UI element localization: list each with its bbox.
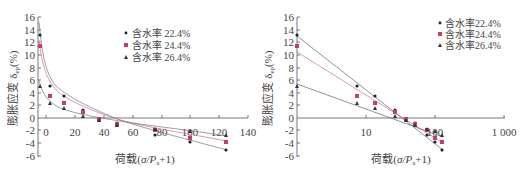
left-chart-panel: 16 14 12 10 8 6 4 2 0 -2 -4 -6 0 20 40 6… xyxy=(0,0,261,177)
svg-text:2: 2 xyxy=(289,99,295,111)
svg-text:16: 16 xyxy=(283,11,295,23)
svg-text:含水率 24.4%: 含水率 24.4% xyxy=(132,39,190,51)
svg-text:12: 12 xyxy=(24,36,35,48)
svg-text:-4: -4 xyxy=(285,137,295,149)
right-x-tick-labels: 10 100 1 000 xyxy=(361,126,517,138)
svg-text:含水率22.4%: 含水率22.4% xyxy=(445,17,501,29)
svg-text:2: 2 xyxy=(30,99,36,111)
svg-text:-4: -4 xyxy=(26,137,36,149)
left-y-label: 膨胀应变 δep(%) xyxy=(6,50,21,125)
left-y-tick-labels: 16 14 12 10 8 6 4 2 0 -2 -4 -6 xyxy=(24,11,36,162)
svg-text:含水率 26.4%: 含水率 26.4% xyxy=(132,51,190,63)
svg-text:0: 0 xyxy=(289,112,295,124)
svg-text:10: 10 xyxy=(24,49,36,61)
svg-text:8: 8 xyxy=(30,62,36,74)
svg-text:0: 0 xyxy=(43,126,49,138)
left-x-ticks xyxy=(46,115,248,118)
legend-dot-icon xyxy=(439,22,442,25)
svg-text:14: 14 xyxy=(24,24,36,36)
svg-text:12: 12 xyxy=(283,36,294,48)
svg-text:含水率 22.4%: 含水率 22.4% xyxy=(132,27,190,39)
svg-text:含水率24.4%: 含水率24.4% xyxy=(445,28,501,40)
svg-text:4: 4 xyxy=(289,87,295,99)
legend-square-icon xyxy=(124,43,128,47)
right-chart-panel: 16 14 12 10 8 6 4 2 0 -2 -4 -6 10 100 1 … xyxy=(261,0,522,177)
left-chart: 16 14 12 10 8 6 4 2 0 -2 -4 -6 0 20 40 6… xyxy=(0,0,261,177)
svg-text:10: 10 xyxy=(283,49,295,61)
right-y-tick-labels: 16 14 12 10 8 6 4 2 0 -2 -4 -6 xyxy=(283,11,295,162)
svg-text:8: 8 xyxy=(289,62,295,74)
svg-text:0: 0 xyxy=(30,112,36,124)
svg-text:60: 60 xyxy=(128,126,140,138)
svg-text:-2: -2 xyxy=(285,124,294,136)
right-x-label: 荷载(σ/Pa+1) xyxy=(371,153,431,167)
svg-text:含水率26.4%: 含水率26.4% xyxy=(445,39,501,51)
svg-text:6: 6 xyxy=(289,74,295,86)
svg-text:4: 4 xyxy=(30,87,36,99)
svg-text:14: 14 xyxy=(283,24,295,36)
svg-text:1 000: 1 000 xyxy=(492,126,517,138)
svg-text:140: 140 xyxy=(240,126,257,138)
right-legend: 含水率22.4% 含水率24.4% 含水率26.4% xyxy=(438,17,501,51)
svg-text:6: 6 xyxy=(30,74,36,86)
left-x-label: 荷载(σ/Pa+1) xyxy=(115,153,175,167)
svg-text:-6: -6 xyxy=(26,150,36,162)
right-y-label: 膨胀应变 δep(%) xyxy=(261,50,276,125)
legend-dot-icon xyxy=(125,32,128,35)
legend-triangle-icon xyxy=(124,55,128,59)
svg-text:20: 20 xyxy=(70,126,82,138)
left-legend: 含水率 22.4% 含水率 24.4% 含水率 26.4% xyxy=(124,27,190,63)
legend-triangle-icon xyxy=(438,43,442,47)
svg-text:16: 16 xyxy=(24,11,36,23)
svg-text:-2: -2 xyxy=(26,124,35,136)
svg-text:-6: -6 xyxy=(285,150,295,162)
legend-square-icon xyxy=(438,32,442,36)
right-chart: 16 14 12 10 8 6 4 2 0 -2 -4 -6 10 100 1 … xyxy=(261,0,522,177)
svg-text:40: 40 xyxy=(99,126,111,138)
svg-text:10: 10 xyxy=(361,126,373,138)
